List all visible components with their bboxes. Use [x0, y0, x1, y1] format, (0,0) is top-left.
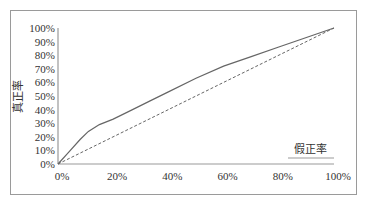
- x-tick-label: 40%: [162, 170, 182, 182]
- y-tick-label: 80%: [35, 49, 55, 61]
- y-tick-label: 30%: [35, 117, 55, 129]
- y-tick-label: 10%: [35, 144, 55, 156]
- x-tick-label: 20%: [107, 170, 127, 182]
- x-tick-label: 0%: [55, 170, 70, 182]
- x-tick-label: 60%: [218, 170, 238, 182]
- roc-chart: 0%10%20%30%40%50%60%70%80%90%100% 0%20%4…: [0, 0, 367, 207]
- y-tick-label: 50%: [35, 90, 55, 102]
- x-tick-label: 80%: [273, 170, 293, 182]
- x-axis-label: 假正率: [294, 142, 327, 156]
- x-tick-labels: 0%20%40%60%80%100%: [55, 170, 351, 182]
- y-axis-label: 真正率: [11, 80, 25, 113]
- y-tick-label: 40%: [35, 104, 55, 116]
- y-tick-label: 70%: [35, 63, 55, 75]
- y-tick-label: 90%: [35, 36, 55, 48]
- y-tick-labels: 0%10%20%30%40%50%60%70%80%90%100%: [29, 22, 55, 170]
- y-tick-label: 20%: [35, 131, 55, 143]
- x-tick-label: 100%: [325, 170, 351, 182]
- y-tick-label: 100%: [29, 22, 55, 34]
- y-tick-label: 0%: [40, 158, 55, 170]
- y-tick-label: 60%: [35, 76, 55, 88]
